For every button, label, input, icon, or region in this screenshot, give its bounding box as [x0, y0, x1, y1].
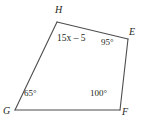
- angle-measure-E: 95°: [101, 38, 114, 47]
- vertex-label-E: E: [129, 27, 135, 37]
- angle-expression-H: 15x – 5: [57, 34, 86, 44]
- vertex-label-H: H: [55, 5, 62, 15]
- angle-measure-G: 65°: [24, 89, 37, 98]
- geometry-figure-quadrilateral: H E G F 15x – 5 95° 100° 65°: [0, 0, 143, 126]
- vertex-label-G: G: [3, 106, 10, 116]
- angle-measure-F: 100°: [90, 89, 107, 98]
- edge-E-F: [120, 39, 128, 110]
- vertex-label-F: F: [122, 107, 128, 117]
